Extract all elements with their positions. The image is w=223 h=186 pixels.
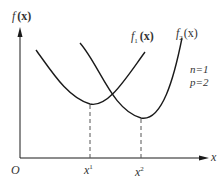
curve-f2-label: f2(x) [176, 26, 198, 42]
origin-label: O [11, 163, 20, 177]
curve-f2 [80, 38, 182, 118]
curve-f1-label: f1(x) [131, 29, 154, 45]
y-axis-label: f(x) [12, 9, 31, 23]
x-axis-label: x [210, 150, 217, 164]
param-n: n=1 [190, 63, 208, 75]
param-p: p=2 [189, 76, 209, 88]
x2-label: x2 [134, 165, 144, 179]
y-axis-arrow-icon [18, 27, 23, 37]
pareto-diagram: f(x) f1(x) f2(x) n=1 p=2 O x1 x2 x [0, 0, 223, 186]
x-axis-arrow-icon [199, 156, 209, 161]
x1-label: x1 [83, 163, 93, 177]
